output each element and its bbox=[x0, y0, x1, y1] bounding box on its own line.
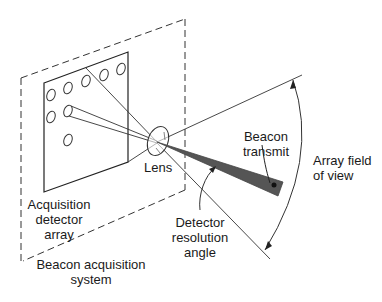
fov-label-line2: of view bbox=[313, 169, 353, 183]
acq-label-line3: array bbox=[24, 228, 94, 242]
fov-label-line1: Array field bbox=[313, 154, 372, 168]
beacon-transmit-label-line2: transmit bbox=[236, 145, 296, 159]
detector-array-panel bbox=[44, 52, 128, 192]
fov-arrow-bottom bbox=[265, 241, 272, 250]
beacon-transmit-label-line1: Beacon bbox=[236, 130, 296, 144]
fov-arrow-top bbox=[290, 80, 296, 89]
lens-label: Lens bbox=[144, 161, 172, 175]
lens bbox=[143, 123, 172, 158]
beacon-point bbox=[272, 183, 277, 188]
system-label-line1: Beacon acquisition bbox=[34, 258, 148, 272]
system-label-line2: system bbox=[34, 273, 148, 287]
resolution-cone bbox=[69, 106, 157, 143]
beacon-acquisition-diagram: Lens Beacon transmit Array field of view… bbox=[0, 0, 382, 302]
resolution-leader bbox=[200, 168, 215, 210]
acq-label-line2: detector bbox=[24, 213, 94, 227]
fov-arc bbox=[265, 80, 302, 250]
acq-label-line1: Acquisition bbox=[24, 198, 94, 212]
detector-elements bbox=[45, 62, 127, 147]
res-label-line2: resolution bbox=[167, 231, 233, 245]
res-label-line1: Detector bbox=[167, 216, 233, 230]
res-label-line3: angle bbox=[167, 246, 233, 260]
